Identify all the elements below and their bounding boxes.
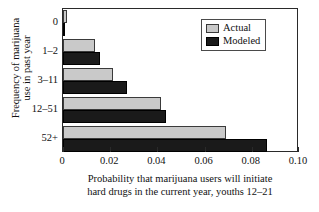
chart-legend: Actual Modeled xyxy=(201,19,266,51)
legend-item-actual: Actual xyxy=(206,22,260,34)
bar-actual-52+ xyxy=(63,126,226,139)
x-tick-mark-1 xyxy=(110,147,111,152)
x-axis-title: Probability that marijuana users will in… xyxy=(62,172,298,198)
legend-label-modeled: Modeled xyxy=(223,35,260,47)
bar-modeled-311 xyxy=(63,81,127,94)
x-tick-label-0_06: 0.06 xyxy=(194,155,212,167)
y-tick-label-52+: 52+ xyxy=(42,132,58,143)
x-tick-label-0_04: 0.04 xyxy=(147,155,165,167)
legend-swatch-modeled-icon xyxy=(206,37,219,46)
y-axis-tick-labels: 01–23–1112–5152+ xyxy=(0,0,62,212)
bar-modeled-12 xyxy=(63,52,100,65)
y-tick-label-0: 0 xyxy=(53,16,58,27)
y-tick-label-311: 3–11 xyxy=(37,74,58,85)
bar-actual-0 xyxy=(63,10,67,23)
bar-modeled-0 xyxy=(63,23,65,36)
x-tick-mark-5 xyxy=(298,147,299,152)
bar-actual-12 xyxy=(63,39,95,52)
x-axis-title-line-1: Probability that marijuana users will in… xyxy=(62,172,298,185)
bar-modeled-52+ xyxy=(63,139,267,152)
x-tick-label-0_10: 0.10 xyxy=(289,155,307,167)
bar-actual-311 xyxy=(63,68,113,81)
bar-modeled-1251 xyxy=(63,110,166,123)
x-axis-title-line-2: hard drugs in the current year, youths 1… xyxy=(62,185,298,198)
bar-chart-figure: Frequency of marijuana use in past year … xyxy=(0,0,319,212)
legend-swatch-actual-icon xyxy=(206,24,219,33)
x-tick-mark-0 xyxy=(63,147,64,152)
x-tick-mark-2 xyxy=(157,147,158,152)
x-tick-label-0_02: 0.02 xyxy=(100,155,118,167)
x-tick-mark-3 xyxy=(205,147,206,152)
bar-actual-1251 xyxy=(63,97,161,110)
x-tick-label-0: 0 xyxy=(59,155,64,167)
x-tick-mark-4 xyxy=(252,147,253,152)
legend-label-actual: Actual xyxy=(223,22,251,34)
x-tick-label-0_08: 0.08 xyxy=(242,155,260,167)
y-tick-label-12: 1–2 xyxy=(42,45,58,56)
y-tick-label-1251: 12–51 xyxy=(32,103,58,114)
legend-item-modeled: Modeled xyxy=(206,35,260,47)
x-axis-tick-labels: 00.020.040.060.080.10 xyxy=(62,153,298,169)
